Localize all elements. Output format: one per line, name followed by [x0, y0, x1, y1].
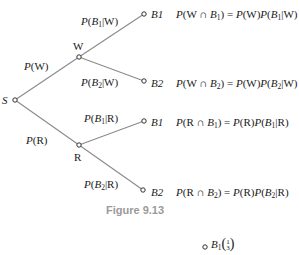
node-r-b2-label: B2: [151, 186, 163, 198]
eq-lhs: (W ∩: [183, 8, 210, 20]
figure-caption: Figure 9.13: [106, 204, 164, 216]
edge-label-w-b1: P(B1|W): [81, 15, 118, 31]
node-r-b1-label: B1: [151, 116, 163, 128]
eq-rhs-c: |R): [275, 186, 288, 198]
equation-w-b1: P(W ∩ B1) = P(W)P(B1|W): [176, 8, 297, 24]
node-r-circle: [77, 143, 81, 147]
p-symbol: P: [24, 60, 31, 72]
condition: |R): [105, 112, 118, 124]
node-s-circle: [13, 98, 17, 102]
p-symbol: P: [81, 76, 88, 88]
condition: |W): [102, 76, 118, 88]
eq-mid: ) =: [218, 116, 233, 128]
eq-lhs: (R ∩: [183, 116, 207, 128]
p-symbol: P: [84, 178, 91, 190]
edge-label-r-b1: P(B1|R): [84, 112, 118, 128]
eq-rhs-a: (W): [243, 8, 261, 20]
eq-mid: ) =: [218, 186, 233, 198]
edge-label-s-w: P(W): [24, 60, 48, 72]
node-w-b1-circle: [142, 12, 146, 16]
node-r-b1-circle: [142, 119, 146, 123]
eq-rhs-a: (R): [240, 186, 255, 198]
eq-lhs: (W ∩: [183, 77, 210, 89]
edge-label-s-r: P(R): [26, 134, 47, 146]
node-r-label: R: [74, 151, 81, 163]
eq-rhs-c: |R): [275, 116, 288, 128]
p-symbol: P: [84, 112, 91, 124]
eq-rhs-c: |W): [281, 77, 297, 89]
node-w-label: W: [73, 40, 83, 52]
eq-rhs-a: (W): [243, 77, 261, 89]
node-s-label: S: [2, 94, 8, 106]
eq-rhs-a: (R): [240, 116, 255, 128]
next-figure-node-circle: [203, 245, 207, 249]
node-w-b2-circle: [142, 79, 146, 83]
p-symbol: P: [26, 134, 33, 146]
condition: |R): [105, 178, 118, 190]
eq-mid: ) =: [221, 8, 236, 20]
edge-arg: (R): [33, 134, 48, 146]
condition: |W): [102, 15, 118, 27]
equation-w-b2: P(W ∩ B2) = P(W)P(B2|W): [176, 77, 297, 93]
edge-arg: (W): [31, 60, 49, 72]
edge-label-w-b2: P(B2|W): [81, 76, 118, 92]
node-text: B2: [151, 186, 163, 198]
equation-r-b2: P(R ∩ B2) = P(R)P(B2|R): [176, 186, 289, 202]
node-text: B1: [151, 116, 163, 128]
node-w-b1-label: B1: [151, 8, 163, 20]
eq-mid: ) =: [221, 77, 236, 89]
node-text: B2: [151, 77, 163, 89]
p-symbol: P: [81, 15, 88, 27]
node-w-circle: [77, 55, 81, 59]
node-w-b2-label: B2: [151, 77, 163, 89]
node-text: B1: [151, 8, 163, 20]
next-figure-node-label: B1(13): [211, 238, 234, 254]
equation-r-b1: P(R ∩ B1) = P(R)P(B1|R): [176, 116, 289, 132]
eq-lhs: (R ∩: [183, 186, 207, 198]
edge-label-r-b2: P(B2|R): [84, 178, 118, 194]
eq-rhs-c: |W): [281, 8, 297, 20]
node-text: B: [211, 238, 218, 250]
node-r-b2-circle: [141, 188, 145, 192]
